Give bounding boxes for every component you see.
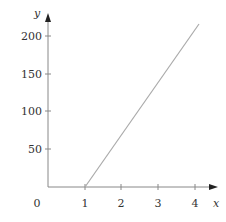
x-tick-label: 3 xyxy=(155,197,162,210)
series-line xyxy=(85,24,199,187)
chart: 1 2 3 4 0 x 50 100 150 200 y xyxy=(0,0,226,222)
x-tick-label: 2 xyxy=(118,197,125,210)
x-ticks: 1 2 3 4 0 x xyxy=(34,184,220,210)
x-axis-label: x xyxy=(213,197,220,210)
x-tick-label: 4 xyxy=(192,197,199,210)
y-tick-label: 50 xyxy=(28,143,42,156)
y-tick-label: 100 xyxy=(21,105,42,118)
x-tick-label: 1 xyxy=(82,197,89,210)
y-tick-label: 200 xyxy=(21,30,42,43)
y-axis-label: y xyxy=(33,7,41,20)
y-tick-label: 150 xyxy=(21,68,42,81)
y-axis-arrow-icon xyxy=(45,13,51,22)
x-axis-arrow-icon xyxy=(209,184,218,190)
y-ticks: 50 100 150 200 y xyxy=(21,7,51,156)
origin-label: 0 xyxy=(34,197,41,210)
